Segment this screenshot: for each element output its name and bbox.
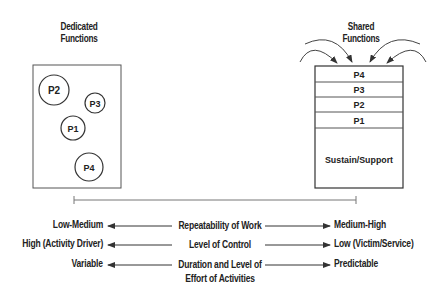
shared-row-p2: P2 [353,100,364,110]
spectrum-line [74,196,356,204]
shared-row-p4: P4 [353,70,364,80]
middle-row2-line1: Level of Control [178,238,263,252]
comparison-middle-row1: Repeatability of Work [178,219,263,233]
curved-arrow-inner-right [370,40,420,62]
comparison-right-row1: Medium-High [334,219,386,230]
middle-row1-line1: Repeatability of Work [178,219,263,233]
process-circle-p4: P4 [75,153,103,181]
curved-arrow-outer-right [387,50,426,63]
comparison-right-row3: Predictable [334,258,378,269]
circle-label: P3 [89,99,100,109]
comparison-right-row2: Low (Victim/Service) [334,238,414,249]
comparison-left-row3: Variable [72,258,103,269]
comparison-middle-row3: Duration and Level of Effort of Activiti… [178,258,263,286]
shared-row-p3: P3 [353,85,364,95]
comparison-middle-row2: Level of Control [178,238,263,252]
comparison-left-row2: High (Activity Driver) [22,238,103,249]
circle-label: P2 [48,85,61,96]
shared-row-p1: P1 [353,116,364,126]
process-circle-p3: P3 [85,93,105,113]
sustain-support-label: Sustain/Support [325,155,393,165]
middle-row3-line1: Duration and Level of [178,258,263,272]
curved-arrow-outer-left [300,50,337,63]
circle-label: P4 [83,163,94,173]
comparison-left-row1: Low-Medium [53,219,103,230]
process-circle-p1: P1 [61,116,85,140]
process-circle-p2: P2 [39,75,69,105]
circle-label: P1 [67,124,78,134]
middle-row3-line2: Effort of Activities [178,272,263,286]
diagram-canvas: P2 P3 P1 P4 P4 P3 P2 P1 Sustain/Support [0,0,447,299]
